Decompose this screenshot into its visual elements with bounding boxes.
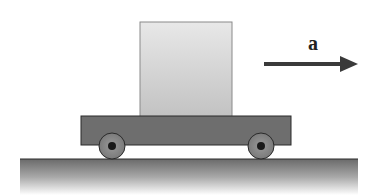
diagram-svg [0, 0, 379, 195]
left-wheel [99, 133, 125, 159]
right-wheel [248, 133, 274, 159]
left-wheel-hub [108, 142, 116, 150]
block [140, 22, 232, 117]
ground-surface [20, 159, 358, 195]
acceleration-arrow-icon [264, 56, 358, 72]
acceleration-label: a [303, 33, 323, 53]
ground [20, 159, 358, 195]
diagram-canvas: a [0, 0, 379, 195]
right-wheel-hub [257, 142, 265, 150]
